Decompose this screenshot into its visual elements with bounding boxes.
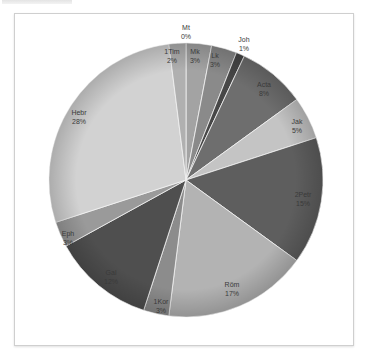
slice-percent-1tim: 2%: [167, 57, 177, 64]
slice-label-eph: Eph: [62, 230, 75, 238]
slice-label-gal: Gal: [106, 269, 117, 276]
slice-label-jak: Jak: [292, 118, 303, 125]
pie-slices: [49, 43, 323, 317]
slice-percent-jak: 5%: [292, 127, 302, 134]
slice-percent-acta: 8%: [259, 90, 269, 97]
slice-label-hebr: Hebr: [71, 109, 87, 116]
slice-percent-1kor: 3%: [156, 307, 166, 314]
slice-percent-hebr: 28%: [72, 118, 86, 125]
slice-label-acta: Acta: [257, 81, 271, 88]
slice-percent-röm: 17%: [225, 290, 239, 297]
slice-label-joh: Joh: [238, 36, 249, 43]
slice-percent-eph: 3%: [63, 239, 73, 246]
slice-label-1tim: 1Tim: [164, 48, 179, 55]
slice-percent-gal: 12%: [104, 278, 118, 285]
slice-percent-mk: 3%: [190, 57, 200, 64]
slice-label-mt: Mt: [182, 24, 190, 31]
slice-percent-mt: 0%: [181, 33, 191, 40]
slice-percent-joh: 1%: [239, 45, 249, 52]
slice-percent-lk: 3%: [210, 61, 220, 68]
slice-label-lk: Lk: [211, 52, 219, 59]
slice-percent-2petr: 15%: [296, 200, 310, 207]
pie-chart: Mt0%Mk3%Lk3%Joh1%Acta8%Jak5%2Petr15%Röm1…: [0, 0, 369, 357]
slice-label-röm: Röm: [225, 281, 240, 288]
slice-label-2petr: 2Petr: [295, 191, 312, 198]
slice-label-mk: Mk: [190, 48, 200, 55]
slice-label-1kor: 1Kor: [154, 298, 169, 305]
